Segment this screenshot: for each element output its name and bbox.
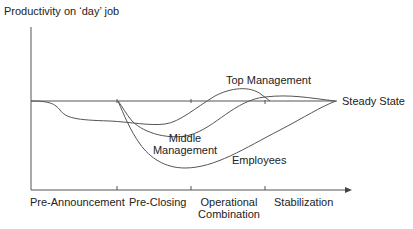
y-axis-label: Productivity on ‘day’ job xyxy=(4,5,119,17)
curve-middle-management xyxy=(118,96,335,137)
x-axis-arrow-icon xyxy=(345,187,352,193)
top-management-label: Top Management xyxy=(226,74,311,86)
phase-operational-line1: Operational xyxy=(194,196,264,208)
phase-stabilization: Stabilization xyxy=(274,196,333,208)
curve-top-management xyxy=(31,89,270,125)
middle-management-line1: Middle xyxy=(150,132,220,144)
middle-management-label: Middle Management xyxy=(150,132,220,156)
steady-state-label: Steady State xyxy=(342,95,405,107)
phase-operational-line2: Combination xyxy=(194,208,264,220)
phase-pre-announcement: Pre-Announcement xyxy=(30,196,125,208)
productivity-diagram xyxy=(0,0,413,229)
middle-management-line2: Management xyxy=(150,144,220,156)
phase-pre-closing: Pre-Closing xyxy=(129,196,186,208)
employees-label: Employees xyxy=(232,154,286,166)
phase-operational-combination: Operational Combination xyxy=(194,196,264,220)
